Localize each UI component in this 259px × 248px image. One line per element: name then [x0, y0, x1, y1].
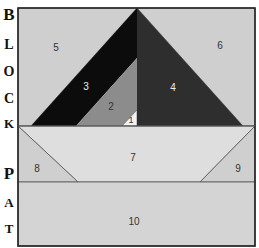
piece-10-label: 10	[128, 216, 140, 227]
piece-4-label: 4	[170, 82, 176, 93]
piece-6-label: 6	[217, 40, 223, 51]
piece-7-label: 7	[130, 152, 136, 163]
piece-3-label: 3	[83, 81, 89, 92]
piece-1-label: 1	[128, 115, 133, 125]
piece-8-label: 8	[34, 163, 40, 174]
piece-5-label: 5	[53, 42, 59, 53]
quilt-block-diagram: 5 6 3 2 4 1 7 8 9 10	[0, 0, 259, 248]
piece-10	[18, 182, 255, 246]
piece-2-label: 2	[108, 101, 114, 112]
piece-9-label: 9	[235, 163, 241, 174]
